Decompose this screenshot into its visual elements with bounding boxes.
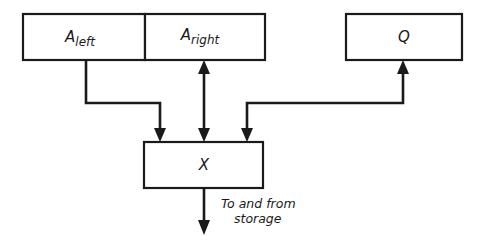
arrow-down-icon xyxy=(198,128,210,142)
storage-label-line1: To and from xyxy=(221,196,296,211)
register-x: X xyxy=(144,142,263,188)
arrow-up-icon xyxy=(397,60,409,74)
register-a: Aleft Aright xyxy=(23,14,265,60)
wire-a-left-to-x xyxy=(86,60,166,142)
arrow-down-icon xyxy=(154,128,166,142)
wire-x-storage: To and from storage xyxy=(198,188,296,235)
arrow-up-icon xyxy=(198,60,210,74)
register-q: Q xyxy=(346,14,462,60)
arrow-down-icon xyxy=(198,220,210,235)
register-q-label: Q xyxy=(398,28,410,46)
wire-a-right-x-bidirectional xyxy=(198,60,210,142)
register-diagram: Aleft Aright Q X To and from storage xyxy=(0,0,483,249)
wire-x-to-q xyxy=(241,60,409,142)
storage-label-line2: storage xyxy=(234,211,282,226)
arrow-down-icon xyxy=(241,128,253,142)
register-x-label: X xyxy=(198,156,210,174)
